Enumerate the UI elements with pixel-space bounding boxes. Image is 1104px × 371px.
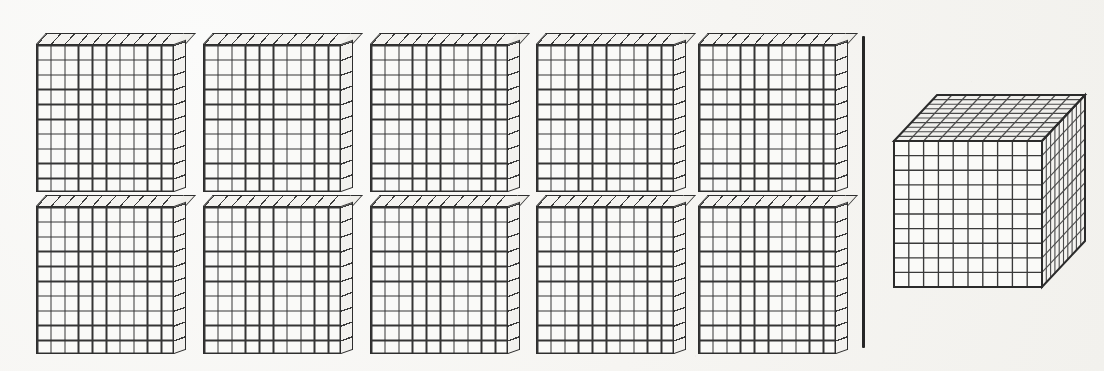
thousand-cube-group [0,0,1104,371]
illustration-canvas [0,0,1104,371]
thousand-cube-svg [0,0,1104,371]
